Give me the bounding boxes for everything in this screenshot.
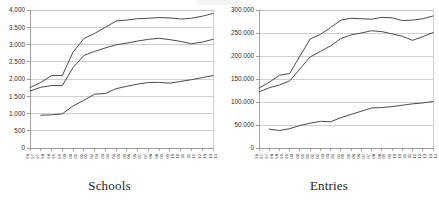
data-line-series-middle xyxy=(259,31,433,92)
svg-text:08: 08 xyxy=(371,153,376,158)
x-axis-tick-label: 0405 xyxy=(111,153,121,158)
x-axis-tick-label: 0607 xyxy=(132,153,142,158)
x-axis-tick-label: 0708 xyxy=(143,153,153,158)
y-axis-tick-label: 0 xyxy=(21,144,25,151)
x-axis-tick-label: 0102 xyxy=(79,153,89,158)
y-axis-tick-label: 300.000 xyxy=(231,6,255,13)
svg-text:09: 09 xyxy=(381,153,386,158)
y-axis-tick-label: 500 xyxy=(14,127,25,134)
chart-caption-schools: Schools xyxy=(0,178,219,194)
x-axis-tick-label: 0001 xyxy=(295,153,305,158)
x-axis-tick-label: 1112 xyxy=(186,153,196,158)
x-axis-tick-label: 0607 xyxy=(356,153,366,158)
x-axis-tick-label: 1314 xyxy=(208,153,218,158)
svg-text:13: 13 xyxy=(422,153,427,158)
x-axis-tick-label: 1011 xyxy=(397,153,407,158)
x-axis-tick-label: 0809 xyxy=(377,153,387,158)
y-axis-tick-label: 2.500 xyxy=(9,58,25,65)
data-line-series-bottom xyxy=(41,76,213,116)
x-axis-tick-label: 0910 xyxy=(387,153,397,158)
svg-text:00: 00 xyxy=(62,153,67,158)
x-axis-tick-label: 0102 xyxy=(305,153,315,158)
x-axis-tick-label: 0001 xyxy=(68,153,78,158)
chart-panel-schools: 05001.0001.5002.0002.5003.0003.5004.0009… xyxy=(0,0,219,202)
svg-text:09: 09 xyxy=(159,153,164,158)
x-axis-tick-label: 0304 xyxy=(100,153,110,158)
figure-container: 05001.0001.5002.0002.5003.0003.5004.0009… xyxy=(0,0,439,202)
svg-text:05: 05 xyxy=(116,153,121,158)
svg-text:07: 07 xyxy=(137,153,142,158)
y-axis-tick-label: 50.000 xyxy=(234,121,254,128)
x-axis-tick-label: 1112 xyxy=(407,153,417,158)
y-axis-tick-label: 2.000 xyxy=(9,75,25,82)
x-axis-tick-label: 1011 xyxy=(175,153,185,158)
x-axis-tick-label: 0809 xyxy=(154,153,164,158)
line-chart-entries: 050.000100.000150.000200.000250.000300.0… xyxy=(219,0,439,176)
line-chart-schools: 05001.0001.5002.0002.5003.0003.5004.0009… xyxy=(0,0,219,176)
y-axis-tick-label: 1.000 xyxy=(9,110,25,117)
x-axis-tick-label: 0304 xyxy=(325,153,335,158)
svg-text:08: 08 xyxy=(148,153,153,158)
svg-text:98: 98 xyxy=(269,153,274,158)
svg-text:99: 99 xyxy=(51,153,56,158)
svg-text:03: 03 xyxy=(320,153,325,158)
x-axis-tick-label: 9900 xyxy=(57,153,67,158)
svg-text:06: 06 xyxy=(126,153,131,158)
svg-text:05: 05 xyxy=(340,153,345,158)
svg-text:03: 03 xyxy=(94,153,99,158)
svg-text:11: 11 xyxy=(402,153,407,158)
data-line-series-middle xyxy=(30,38,213,91)
svg-text:10: 10 xyxy=(170,153,175,158)
x-axis-tick-label: 0203 xyxy=(315,153,325,158)
svg-text:01: 01 xyxy=(73,153,78,158)
x-axis-tick-label: 0506 xyxy=(122,153,132,158)
y-axis-tick-label: 250.000 xyxy=(231,29,255,36)
y-axis-tick-label: 3.500 xyxy=(9,24,25,31)
svg-text:10: 10 xyxy=(392,153,397,158)
svg-text:14: 14 xyxy=(213,153,218,158)
x-axis-tick-label: 9900 xyxy=(284,153,294,158)
x-axis-tick-label: 1213 xyxy=(197,153,207,158)
chart-plot-entries: 050.000100.000150.000200.000250.000300.0… xyxy=(219,0,439,176)
x-axis-tick-label: 9798 xyxy=(35,153,45,158)
x-axis-tick-label: 0910 xyxy=(165,153,175,158)
x-axis-tick-label: 0203 xyxy=(89,153,99,158)
x-axis-tick-label: 9697 xyxy=(254,153,264,158)
svg-text:02: 02 xyxy=(310,153,315,158)
svg-text:11: 11 xyxy=(180,153,185,158)
y-axis-tick-label: 1.500 xyxy=(9,93,25,100)
data-line-series-top xyxy=(30,13,213,87)
y-axis-tick-label: 200.000 xyxy=(231,52,255,59)
svg-text:06: 06 xyxy=(351,153,356,158)
chart-panel-entries: 050.000100.000150.000200.000250.000300.0… xyxy=(219,0,439,202)
svg-text:97: 97 xyxy=(30,153,35,158)
x-axis-tick-label: 9798 xyxy=(264,153,274,158)
svg-text:04: 04 xyxy=(330,153,335,158)
x-axis-tick-label: 9899 xyxy=(46,153,56,158)
y-axis-tick-label: 4.000 xyxy=(9,6,25,13)
chart-caption-entries: Entries xyxy=(219,178,439,194)
x-axis-tick-label: 0708 xyxy=(366,153,376,158)
svg-text:99: 99 xyxy=(279,153,284,158)
x-axis-tick-label: 1314 xyxy=(428,153,438,158)
data-line-series-bottom xyxy=(269,102,433,131)
y-axis-tick-label: 3.000 xyxy=(9,41,25,48)
y-axis-tick-label: 0 xyxy=(250,144,254,151)
y-axis-tick-label: 100.000 xyxy=(231,98,255,105)
svg-text:97: 97 xyxy=(259,153,264,158)
x-axis-tick-label: 9697 xyxy=(25,153,35,158)
svg-text:02: 02 xyxy=(83,153,88,158)
svg-text:14: 14 xyxy=(433,153,438,158)
svg-text:01: 01 xyxy=(300,153,305,158)
x-axis-tick-label: 1213 xyxy=(417,153,427,158)
svg-text:04: 04 xyxy=(105,153,110,158)
chart-plot-schools: 05001.0001.5002.0002.5003.0003.5004.0009… xyxy=(0,0,219,176)
svg-text:12: 12 xyxy=(191,153,196,158)
svg-text:07: 07 xyxy=(361,153,366,158)
y-axis-tick-label: 150.000 xyxy=(231,75,255,82)
x-axis-tick-label: 0506 xyxy=(346,153,356,158)
x-axis-tick-label: 9899 xyxy=(274,153,284,158)
svg-text:13: 13 xyxy=(202,153,207,158)
data-line-series-top xyxy=(259,16,433,88)
svg-text:00: 00 xyxy=(289,153,294,158)
